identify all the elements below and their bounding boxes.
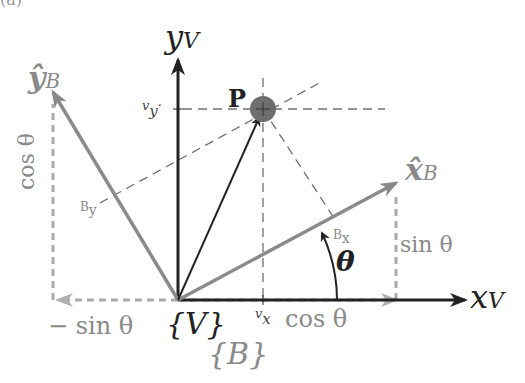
- theta-arc-icon: [322, 233, 337, 300]
- cos-theta-horizontal-label: cos θ: [285, 305, 347, 333]
- y-v-label: yV: [165, 18, 199, 56]
- x-b-axis: [178, 183, 396, 300]
- x-b-label: x̂B: [405, 152, 438, 187]
- frame-b-label: {B}: [208, 336, 268, 371]
- by-label: By: [80, 198, 97, 214]
- bx-label: Bx: [333, 226, 350, 242]
- theta-label: θ: [336, 245, 355, 278]
- y-b-label: ŷB: [28, 60, 60, 95]
- point-p-label: P: [228, 84, 246, 113]
- y-b-axis: [53, 92, 178, 300]
- sin-theta-label: sin θ: [400, 232, 453, 257]
- panel-label: (a): [0, 0, 22, 9]
- position-vector: [178, 118, 259, 300]
- by-guide: [100, 81, 323, 203]
- neg-sin-theta-label: − sin θ: [48, 312, 133, 340]
- vx-label: vx: [255, 304, 271, 322]
- x-v-label: xV: [470, 278, 504, 316]
- vy-label: vy·: [142, 96, 162, 114]
- cos-theta-vertical-label: cos θ: [14, 133, 39, 190]
- bx-guide: [263, 109, 334, 218]
